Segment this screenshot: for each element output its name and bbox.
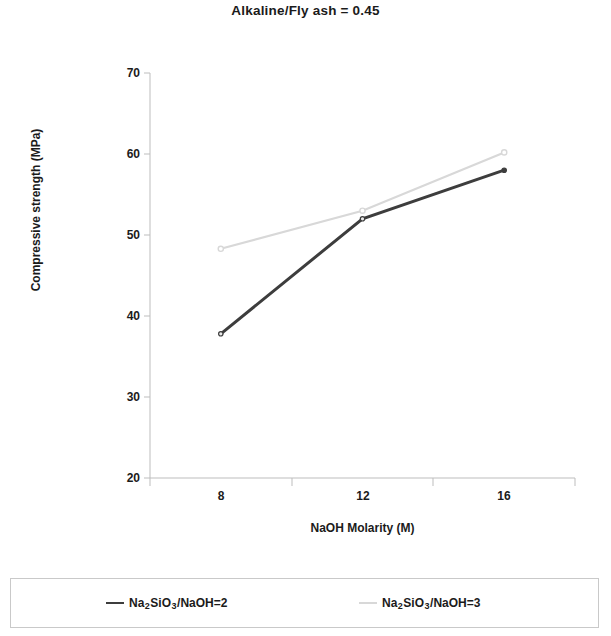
y-tick-label-30: 30 xyxy=(100,391,140,403)
y-tick-label-50: 50 xyxy=(100,229,140,241)
x-tick-label-8: 8 xyxy=(191,490,251,502)
y-tick-label-70: 70 xyxy=(100,67,140,79)
legend-line-swatch-icon xyxy=(359,602,377,604)
y-tick-label-60: 60 xyxy=(100,148,140,160)
x-axis-title: NaOH Molarity (M) xyxy=(150,521,575,535)
series-line-na2sio3-naoh-2 xyxy=(221,170,504,334)
legend-label-na2sio3-naoh-2: Na2SiO3/NaOH=2 xyxy=(129,596,227,610)
y-tick-label-40: 40 xyxy=(100,310,140,322)
chart-plot-svg xyxy=(0,0,611,560)
legend-line-swatch-icon xyxy=(106,602,124,605)
legend-item-na2sio3-naoh-2[interactable]: Na2SiO3/NaOH=2 xyxy=(106,595,227,611)
series-markers-na2sio3-naoh-2 xyxy=(219,168,507,336)
y-axis-ticks xyxy=(144,73,150,478)
chart-plot-figure: 70 60 50 40 30 20 8 12 16 Compressive st… xyxy=(0,0,611,560)
series-markers-na2sio3-naoh-3 xyxy=(218,150,507,252)
y-axis-title: Compressive strength (MPa) xyxy=(29,80,43,340)
x-tick-label-16: 16 xyxy=(474,490,534,502)
legend-item-na2sio3-naoh-3[interactable]: Na2SiO3/NaOH=3 xyxy=(359,595,480,611)
series-line-na2sio3-naoh-3 xyxy=(221,152,504,248)
legend-label-na2sio3-naoh-3: Na2SiO3/NaOH=3 xyxy=(382,596,480,610)
x-tick-label-12: 12 xyxy=(333,490,393,502)
x-axis-ticks xyxy=(150,478,575,486)
chart-legend: Na2SiO3/NaOH=2 Na2SiO3/NaOH=3 xyxy=(10,578,599,628)
y-tick-label-20: 20 xyxy=(100,472,140,484)
